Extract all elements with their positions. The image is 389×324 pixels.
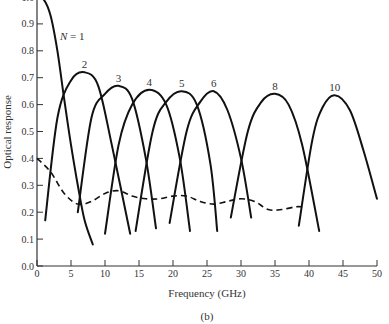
y-axis-label: Optical response	[1, 95, 13, 169]
y-tick-label: 0.6	[22, 99, 35, 110]
curve-label: 8	[272, 80, 278, 92]
y-tick-label: 0.4	[22, 153, 35, 164]
curve-label: 4	[146, 76, 152, 88]
y-tick-label: 0.3	[22, 180, 35, 191]
curve-n5	[136, 91, 218, 231]
y-tick-label: 0.1	[22, 234, 35, 245]
y-tick-label: 1.0	[22, 0, 35, 3]
x-tick-label: 15	[134, 268, 144, 279]
x-tick-label: 40	[304, 268, 314, 279]
curve-label: 2	[82, 58, 88, 70]
x-tick-label: 25	[202, 268, 212, 279]
y-tick-label: 0.0	[22, 261, 35, 272]
y-tick-label: 0.7	[22, 72, 35, 83]
figure-caption: (b)	[201, 310, 214, 323]
x-tick-label: 10	[100, 268, 110, 279]
x-tick-label: 30	[236, 268, 246, 279]
y-tick-label: 0.5	[22, 126, 35, 137]
y-tick-label: 0.8	[22, 45, 35, 56]
x-tick-label: 5	[69, 268, 74, 279]
x-tick-label: 50	[372, 268, 382, 279]
curve-label: 3	[116, 72, 122, 84]
curves	[37, 0, 377, 245]
x-tick-label: 35	[270, 268, 280, 279]
curve-label: N = 1	[59, 30, 85, 42]
curve-labels: N = 123456810	[59, 30, 341, 93]
curve-n10	[299, 95, 377, 226]
x-tick-label: 0	[35, 268, 40, 279]
x-tick-label: 45	[338, 268, 348, 279]
curve-label: 5	[179, 77, 185, 89]
x-axis-label: Frequency (GHz)	[168, 287, 246, 300]
x-tick-label: 20	[168, 268, 178, 279]
y-tick-label: 0.2	[22, 207, 35, 218]
chart: 051015202530354045500.00.10.20.30.40.50.…	[0, 0, 389, 324]
curve-n8	[231, 94, 319, 231]
curve-label: 10	[329, 81, 341, 93]
curve-label: 6	[211, 77, 217, 89]
y-tick-label: 0.9	[22, 18, 35, 29]
